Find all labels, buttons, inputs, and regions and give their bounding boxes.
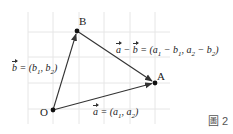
eq-a-part: ) bbox=[135, 106, 138, 117]
eq-b-part: , b bbox=[41, 62, 51, 73]
figure-label: 圖 2 bbox=[208, 112, 228, 128]
point-b bbox=[75, 29, 80, 34]
vector-a-symbol: a bbox=[116, 45, 121, 55]
point-o bbox=[51, 108, 56, 113]
eq-diff-part: − b bbox=[195, 44, 212, 55]
eq-b-part: ) bbox=[54, 62, 57, 73]
vector-b-symbol: b bbox=[133, 45, 138, 55]
eq-diff-part: , a bbox=[182, 44, 192, 55]
eq-diff-part: = (a bbox=[138, 44, 158, 55]
equation-vector-a-minus-b: a − b = (a1 − b1, a2 − b2) bbox=[116, 45, 219, 58]
vector-b-symbol: b bbox=[12, 63, 17, 73]
vector-a-symbol: a bbox=[93, 107, 98, 117]
eq-diff-part: − bbox=[121, 44, 133, 55]
label-point-a: A bbox=[157, 71, 165, 82]
label-point-o: O bbox=[40, 107, 48, 118]
equation-vector-b: b = (b1, b2) bbox=[12, 63, 57, 76]
label-point-b: B bbox=[79, 16, 86, 27]
eq-a-part: , a bbox=[122, 106, 132, 117]
equation-vector-a: a = (a1, a2) bbox=[93, 107, 138, 120]
eq-diff-part: ) bbox=[215, 44, 218, 55]
eq-b-part: = (b bbox=[17, 62, 37, 73]
eq-a-part: = (a bbox=[98, 106, 118, 117]
eq-diff-part: − b bbox=[161, 44, 178, 55]
